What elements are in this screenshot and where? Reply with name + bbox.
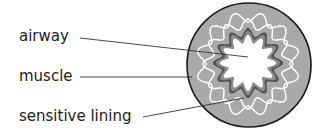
label-sensitive-lining: sensitive lining bbox=[19, 109, 132, 124]
label-airway: airway bbox=[19, 29, 69, 44]
label-muscle: muscle bbox=[19, 69, 73, 84]
